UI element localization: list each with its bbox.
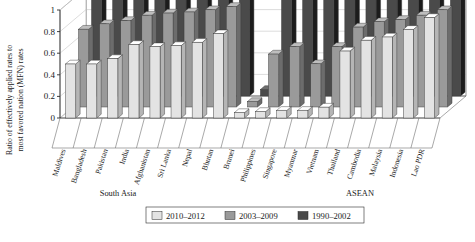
bar bbox=[290, 43, 305, 107]
bar-side-face bbox=[300, 43, 305, 107]
category-divider bbox=[221, 118, 229, 148]
group-label: ASEAN bbox=[346, 189, 374, 198]
category-label: Afghanistan bbox=[132, 148, 152, 186]
bar bbox=[361, 36, 376, 118]
bar-front-face bbox=[382, 37, 392, 118]
category-label: Thailand bbox=[325, 148, 342, 177]
category-divider bbox=[432, 118, 440, 148]
bar-front-face bbox=[255, 112, 265, 118]
bar-side-face bbox=[97, 60, 102, 118]
category-labels: MaldivesBangladeshPakistanIndiaAfghanist… bbox=[50, 147, 426, 186]
bar bbox=[403, 26, 418, 118]
bar bbox=[247, 98, 262, 107]
bar bbox=[311, 60, 326, 107]
legend-label: 2010–2012 bbox=[166, 211, 205, 221]
category-divider bbox=[136, 118, 144, 148]
bar-side-face bbox=[392, 33, 397, 118]
y-tick-label: 1 bbox=[51, 5, 56, 15]
bar bbox=[129, 41, 144, 118]
bar-side-face bbox=[223, 30, 228, 118]
category-divider bbox=[94, 118, 102, 148]
category-label: Nepal bbox=[180, 148, 194, 168]
bar bbox=[192, 39, 207, 118]
category-label: India bbox=[117, 147, 131, 165]
bar-side-face bbox=[435, 14, 440, 118]
bar-front-face bbox=[129, 45, 139, 118]
category-divider bbox=[348, 118, 356, 148]
category-label: Myanmar bbox=[282, 147, 300, 178]
bar-side-face bbox=[321, 60, 326, 107]
bar-front-face bbox=[87, 64, 97, 118]
category-label: Lao PDR bbox=[409, 147, 427, 178]
bar-side-face bbox=[236, 3, 241, 107]
category-label: Brunei bbox=[221, 148, 236, 170]
bar-side-face bbox=[350, 47, 355, 118]
bar bbox=[108, 55, 123, 118]
category-divider bbox=[158, 118, 166, 148]
bar-front-face bbox=[298, 110, 308, 118]
bar-front-face bbox=[65, 64, 75, 118]
category-divider bbox=[73, 118, 81, 148]
legend: 2010–20122003–20091990–2002 bbox=[146, 207, 364, 223]
bar-front-face bbox=[268, 54, 278, 107]
bar bbox=[150, 43, 165, 118]
bar-front-face bbox=[290, 47, 300, 107]
bar-side-face bbox=[461, 0, 466, 96]
category-divider bbox=[242, 118, 250, 148]
bar bbox=[87, 60, 102, 118]
bar-front-face bbox=[234, 113, 244, 118]
category-label: Cambodia bbox=[345, 147, 363, 180]
bar-side-face bbox=[279, 50, 284, 107]
bar-front-face bbox=[311, 64, 321, 107]
bar-front-face bbox=[403, 29, 413, 118]
bar bbox=[171, 42, 186, 118]
category-divider bbox=[179, 118, 187, 148]
category-label: Indonesia bbox=[388, 147, 406, 178]
bar bbox=[424, 14, 439, 118]
category-divider bbox=[200, 118, 208, 148]
group-labels: South AsiaASEAN bbox=[100, 189, 374, 198]
bar bbox=[213, 30, 228, 118]
category-divider bbox=[411, 118, 419, 148]
category-label: Vietnam bbox=[304, 148, 321, 175]
category-label: Philippines bbox=[238, 148, 257, 183]
y-tick-label: 0 bbox=[51, 113, 56, 123]
bar-side-face bbox=[139, 41, 144, 118]
bar-side-face bbox=[249, 0, 254, 96]
category-divider bbox=[305, 118, 313, 148]
category-label: Malaysia bbox=[367, 147, 384, 177]
bar-side-face bbox=[76, 60, 81, 118]
bar-chart-3d: 00.20.40.60.81MaldivesBangladeshPakistan… bbox=[0, 0, 475, 242]
bar bbox=[239, 0, 254, 96]
bar bbox=[277, 107, 292, 118]
y-axis-title-line: most favored nation (MFN) rates bbox=[16, 48, 25, 151]
bar bbox=[65, 60, 80, 118]
bar-front-face bbox=[319, 107, 329, 118]
legend-item: 2010–2012 bbox=[152, 211, 205, 221]
bar bbox=[340, 47, 355, 118]
bar bbox=[268, 50, 283, 107]
y-axis-title-line: Ratio of effectively applied rates to bbox=[5, 45, 14, 155]
bar-front-face bbox=[150, 47, 160, 118]
bar-front-face bbox=[108, 59, 118, 118]
bar-front-face bbox=[277, 110, 287, 118]
legend-label: 1990–2002 bbox=[312, 211, 351, 221]
category-divider bbox=[263, 118, 271, 148]
bar-front-face bbox=[340, 51, 350, 118]
bar-front-face bbox=[247, 102, 257, 107]
bar-front-face bbox=[192, 42, 202, 118]
legend-swatch bbox=[298, 212, 308, 220]
bar-side-face bbox=[413, 26, 418, 118]
legend-swatch bbox=[152, 212, 162, 220]
bar bbox=[382, 33, 397, 118]
bar bbox=[234, 109, 249, 118]
category-label: Pakistan bbox=[93, 148, 110, 175]
bar-front-face bbox=[424, 18, 434, 118]
bar-front-face bbox=[213, 34, 223, 118]
category-label: Bhutan bbox=[200, 148, 215, 172]
category-label: Maldives bbox=[50, 148, 67, 178]
bar bbox=[450, 0, 465, 96]
category-divider bbox=[115, 118, 123, 148]
y-axis-title: Ratio of effectively applied rates tomos… bbox=[5, 45, 25, 155]
legend-swatch bbox=[225, 212, 235, 220]
